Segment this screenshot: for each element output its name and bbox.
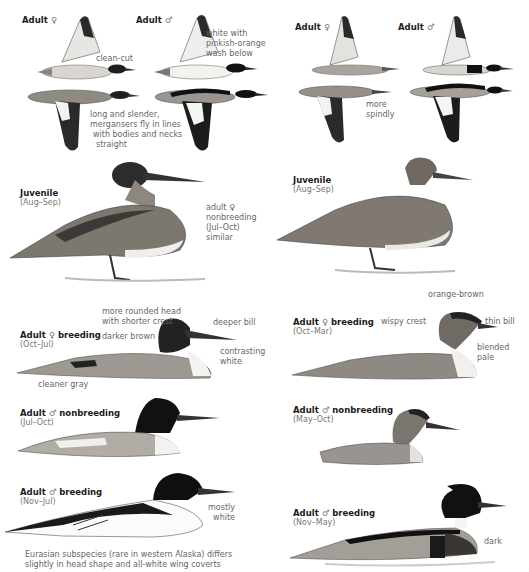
bird-illustration-juvenile-right <box>275 150 475 280</box>
bird-illustration-right-male-flight-upper <box>412 15 517 80</box>
note-rounded-head-1: more rounded head <box>102 307 181 317</box>
bird-illustration-male-nonbreeding-right <box>318 402 463 467</box>
note-cleaner-gray: cleaner gray <box>38 380 88 390</box>
note-long-slender-1: long and slender, <box>90 110 160 120</box>
note-long-slender-2: mergansers fly in lines <box>90 120 181 130</box>
note-white-wash-1: white with <box>206 29 247 39</box>
note-adult-female-nonbreeding-1: adult ♀ <box>206 203 235 213</box>
note-contrasting-white-1: contrasting <box>220 347 265 357</box>
caption-eurasian-2: slightly in head shape and all-white win… <box>25 560 221 570</box>
note-adult-female-nonbreeding-3: (Jul–Oct) <box>206 223 240 233</box>
note-deeper-bill: deeper bill <box>213 318 256 328</box>
note-adult-female-nonbreeding-2: nonbreeding <box>206 213 257 223</box>
note-blended-pale-1: blended <box>477 343 509 353</box>
note-white-wash-2: pinkish-orange <box>206 39 266 49</box>
label-text: Adult <box>293 405 319 415</box>
note-rounded-head-2: with shorter crest <box>102 317 173 327</box>
note-clean-cut: clean-cut <box>96 54 133 64</box>
bird-illustration-right-female-flight-upper <box>300 15 405 80</box>
caption-eurasian-1: Eurasian subspecies (rare in western Ala… <box>25 550 232 560</box>
note-white-wash-3: wash below <box>206 49 253 59</box>
note-thin-bill: thin bill <box>485 317 515 327</box>
note-mostly-white-1: mostly <box>205 503 235 513</box>
note-adult-female-nonbreeding-4: similar <box>206 233 233 243</box>
bird-illustration-male-nonbreeding-left <box>15 393 215 463</box>
note-long-slender-3: with bodies and necks <box>93 130 182 140</box>
note-dark: dark <box>484 537 502 547</box>
note-darker-brown: darker brown <box>102 332 155 342</box>
bird-illustration-male-breeding-left <box>3 470 238 545</box>
note-mostly-white-2: white <box>205 513 235 523</box>
bird-illustration-right-male-flight-lower <box>405 82 515 152</box>
note-blended-pale-2: pale <box>477 353 494 363</box>
note-long-slender-4: straight <box>96 140 127 150</box>
bird-illustration-juvenile-left <box>5 150 215 285</box>
note-contrasting-white-2: white <box>220 357 242 367</box>
note-orange-brown: orange-brown <box>428 290 484 300</box>
note-more-spindly-2: spindly <box>366 110 395 120</box>
note-more-spindly-1: more <box>366 100 387 110</box>
note-wispy-crest: wispy crest <box>381 317 426 327</box>
bird-illustration-male-breeding-right <box>285 478 510 568</box>
bird-illustration-female-flight-upper <box>22 12 137 87</box>
